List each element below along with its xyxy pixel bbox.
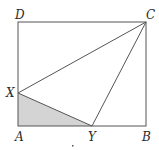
stray-dot <box>72 145 74 147</box>
label-x: X <box>5 86 15 100</box>
label-b: B <box>141 130 151 144</box>
segment-yc <box>92 22 146 126</box>
segment-xc <box>18 22 146 93</box>
label-a: A <box>14 130 24 144</box>
geometry-diagram: D C X A Y B <box>0 0 159 150</box>
label-d: D <box>14 8 25 22</box>
label-c: C <box>146 8 155 22</box>
label-y: Y <box>88 130 97 144</box>
